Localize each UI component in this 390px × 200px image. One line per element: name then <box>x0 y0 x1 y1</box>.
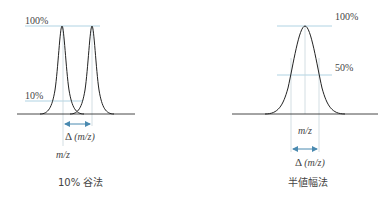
right-label-50: 50% <box>335 63 353 73</box>
right-delta-label: Δ (m/z) <box>295 157 325 168</box>
right-label-100: 100% <box>335 12 358 22</box>
right-mz-label: m/z <box>298 126 312 136</box>
left-label-100: 100% <box>25 16 48 26</box>
delta-symbol: Δ <box>295 156 301 168</box>
left-delta-label: Δ (m/z) <box>65 131 95 142</box>
delta-variable: (m/z) <box>304 157 325 168</box>
left-caption: 10% 谷法 <box>58 178 103 188</box>
diagram-canvas <box>0 0 390 200</box>
left-label-10: 10% <box>25 91 43 101</box>
left-mz-label: m/z <box>56 150 70 160</box>
delta-symbol: Δ <box>65 130 71 142</box>
delta-variable: (m/z) <box>74 131 95 142</box>
left-panel-graphic <box>17 26 135 146</box>
right-caption: 半値幅法 <box>288 178 328 188</box>
